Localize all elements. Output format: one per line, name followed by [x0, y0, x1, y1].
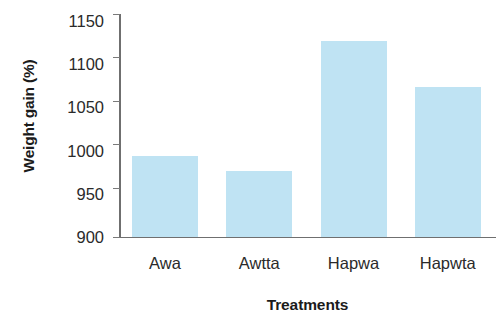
y-axis-tick-label: 900 — [42, 229, 104, 246]
y-axis-tick-label: 1150 — [42, 13, 104, 30]
x-axis-tick-label: Hapwta — [401, 255, 495, 272]
bar-series — [119, 14, 496, 238]
x-axis-tick-label: Awtta — [212, 255, 306, 272]
y-axis-tick-label: 1000 — [42, 143, 104, 160]
bar — [321, 41, 387, 236]
x-axis-tick-label-group: AwaAwttaHapwaHapwta — [119, 255, 496, 279]
plot-area — [119, 14, 496, 238]
x-axis-title: Treatments — [119, 296, 496, 314]
y-axis-tick-label: 1050 — [42, 99, 104, 116]
y-axis-tick-label-group: 1150 1100 1050 1000 950 900 — [42, 0, 104, 250]
x-axis-tick-label: Awa — [118, 255, 212, 272]
x-axis-tick-label: Hapwa — [307, 255, 401, 272]
bar — [226, 171, 292, 236]
y-axis-tick-label: 1100 — [42, 56, 104, 73]
bar-chart-figure: Weight gain (%) 1150 1100 1050 1000 950 … — [0, 0, 496, 323]
y-axis-tick-label: 950 — [42, 186, 104, 203]
bar — [132, 156, 198, 237]
bar — [415, 87, 481, 237]
